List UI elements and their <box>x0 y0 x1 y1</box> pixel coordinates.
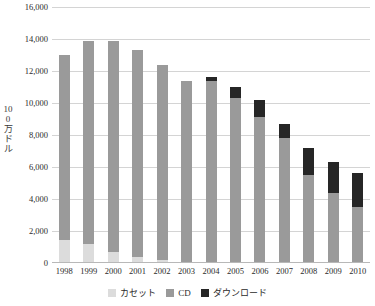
legend-swatch-icon <box>201 289 209 297</box>
legend-label: ダウンロード <box>213 286 267 299</box>
bar-segment <box>303 148 314 175</box>
y-axis-tick-label: 16,000 <box>25 2 48 12</box>
bar-column[interactable] <box>303 148 314 263</box>
bar-segment <box>230 87 241 98</box>
x-axis-tick-labels: 1998199920002001200220032004200520062007… <box>52 266 370 280</box>
x-axis-baseline <box>52 262 370 263</box>
bar-segment <box>108 41 119 252</box>
x-axis-tick-label: 1998 <box>56 266 73 276</box>
bar-column[interactable] <box>132 50 143 263</box>
x-axis-tick-label: 2006 <box>251 266 268 276</box>
bar-segment <box>254 100 265 118</box>
legend-item[interactable]: カセット <box>108 286 156 299</box>
bar-segment <box>230 98 241 263</box>
x-axis-tick-label: 2000 <box>105 266 122 276</box>
bar-segment <box>59 55 70 240</box>
bar-series-group <box>52 7 370 263</box>
x-axis-tick-label: 2007 <box>276 266 293 276</box>
bar-column[interactable] <box>279 124 290 263</box>
x-axis-tick-label: 2001 <box>129 266 146 276</box>
bar-column[interactable] <box>59 55 70 263</box>
y-axis-tick-label: 4,000 <box>29 194 48 204</box>
bar-column[interactable] <box>328 162 339 263</box>
plot-area <box>52 7 370 263</box>
x-axis-tick-label: 1999 <box>80 266 97 276</box>
legend-label: CD <box>178 288 191 298</box>
bar-column[interactable] <box>230 87 241 263</box>
x-axis-tick-label: 2008 <box>300 266 317 276</box>
bar-segment <box>328 193 339 263</box>
y-axis-tick-label: 14,000 <box>25 34 48 44</box>
legend-label: カセット <box>120 286 156 299</box>
bar-segment <box>132 50 143 257</box>
x-axis-tick-label: 2004 <box>203 266 220 276</box>
bar-segment <box>328 162 339 192</box>
bar-segment <box>279 124 290 138</box>
bar-segment <box>59 240 70 263</box>
x-axis-tick-label: 2009 <box>325 266 342 276</box>
bar-column[interactable] <box>181 81 192 263</box>
y-axis-tick-label: 6,000 <box>29 162 48 172</box>
bar-segment <box>352 207 363 263</box>
legend-swatch-icon <box>108 289 116 297</box>
bar-segment <box>157 65 168 259</box>
legend-swatch-icon <box>166 289 174 297</box>
bar-column[interactable] <box>108 41 119 263</box>
y-axis-tick-label: 0 <box>44 258 48 268</box>
bar-column[interactable] <box>206 77 217 263</box>
legend-item[interactable]: ダウンロード <box>201 286 267 299</box>
bar-segment <box>254 117 265 263</box>
y-axis-tick-label: 10,000 <box>25 98 48 108</box>
y-axis-tick-label: 12,000 <box>25 66 48 76</box>
bar-segment <box>83 244 94 263</box>
bar-column[interactable] <box>83 41 94 263</box>
bar-column[interactable] <box>352 173 363 263</box>
x-axis-tick-label: 2010 <box>349 266 366 276</box>
bar-segment <box>83 41 94 244</box>
bar-segment <box>279 138 290 263</box>
bar-segment <box>352 173 363 207</box>
chart-legend: カセットCDダウンロード <box>0 286 375 299</box>
bar-column[interactable] <box>254 100 265 263</box>
y-axis-tick-labels: 16,00014,00012,00010,0008,0006,0004,0002… <box>0 0 52 270</box>
y-axis-tick-label: 8,000 <box>29 130 48 140</box>
bar-column[interactable] <box>157 65 168 263</box>
x-axis-tick-label: 2005 <box>227 266 244 276</box>
x-axis-tick-label: 2003 <box>178 266 195 276</box>
bar-segment <box>206 81 217 263</box>
stacked-bar-chart: 100万ドル 16,00014,00012,00010,0008,0006,00… <box>0 0 375 306</box>
y-axis-tick-label: 2,000 <box>29 226 48 236</box>
x-axis-tick-label: 2002 <box>154 266 171 276</box>
bar-segment <box>303 175 314 263</box>
bar-segment <box>181 81 192 263</box>
legend-item[interactable]: CD <box>166 288 191 298</box>
